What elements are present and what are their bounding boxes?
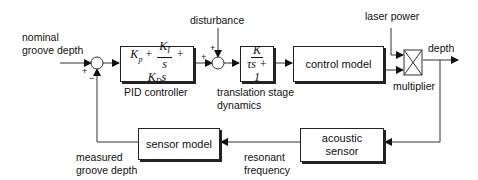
sum1-minus-sign: − [89,74,94,83]
pid-controller-block: Kp + KIs + KDs [120,46,194,82]
translation-stage-label-line1: translation stage [217,86,294,99]
depth-output-label: depth [428,42,454,55]
sum-junction-2 [212,57,224,69]
sum2-disturbance-plus-sign: + [210,44,215,53]
translation-stage-label-line2: dynamics [217,99,261,112]
control-model-block: control model [293,46,384,82]
sensor-model-block: sensor model [138,128,220,160]
sum2-plus-sign: + [201,53,206,62]
nominal-label-line2: groove depth [22,44,83,57]
sum-junction-1 [91,57,103,69]
acoustic-sensor-line1: acoustic [322,132,362,145]
nominal-label-line1: nominal [22,31,59,44]
measured-depth-label-line2: groove depth [76,164,137,177]
measured-depth-label-line1: measured [76,151,123,164]
translation-stage-block: Kτs + 1 [240,46,274,82]
sum1-plus-sign: + [82,67,87,76]
acoustic-sensor-line2: sensor [325,145,358,158]
resonant-frequency-label-line1: resonant [244,151,285,164]
acoustic-sensor-block: acoustic sensor [300,128,384,162]
multiplier-label: multiplier [393,80,435,93]
disturbance-label: disturbance [190,14,244,27]
pid-controller-label: PID controller [124,86,188,99]
laser-power-label: laser power [365,10,419,23]
resonant-frequency-label-line2: frequency [244,164,290,177]
pid-transfer-function: Kp + KIs + KDs [121,40,193,89]
